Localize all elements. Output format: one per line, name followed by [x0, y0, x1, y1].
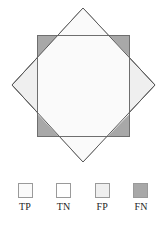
legend-label-fp: FP — [97, 201, 109, 212]
legend-label-fn: FN — [134, 201, 147, 212]
confusion-matrix-venn-figure: TP TN FP FN — [0, 0, 166, 227]
legend-item-tn: TN — [48, 183, 80, 212]
legend-item-tp: TP — [9, 183, 41, 212]
legend-swatch-tp — [18, 183, 33, 198]
legend-item-fn: FN — [125, 183, 157, 212]
legend-swatch-fp — [95, 183, 110, 198]
legend: TP TN FP FN — [0, 183, 166, 223]
legend-label-tp: TP — [19, 201, 31, 212]
legend-label-tn: TN — [57, 201, 71, 212]
legend-swatch-tn — [56, 183, 71, 198]
diagram-area — [0, 0, 166, 172]
legend-swatch-fn — [133, 183, 148, 198]
legend-item-fp: FP — [86, 183, 118, 212]
